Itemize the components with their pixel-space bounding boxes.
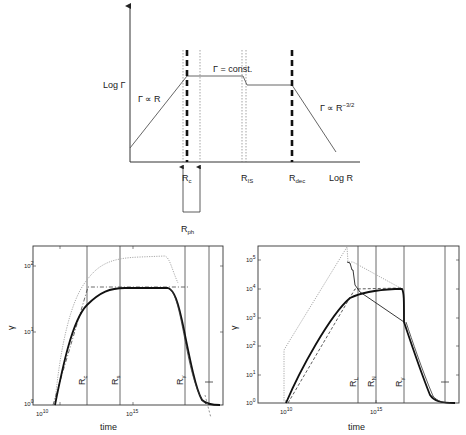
right-label-rn: RN	[366, 376, 377, 387]
label-ris: RIS	[241, 173, 253, 184]
label-rph: Rph	[181, 224, 194, 235]
left-thick-curve	[55, 288, 220, 405]
left-xtick-15: 1015	[126, 408, 138, 417]
right-ytick-5: 105	[246, 254, 256, 263]
right-xtick-15: 1015	[370, 406, 382, 415]
left-ytick-1: 101	[24, 326, 34, 335]
right-ytick-1: 101	[246, 369, 256, 378]
left-plot: 100 101 102 1010 1015 time γ Rc Rs Rγ	[6, 246, 223, 432]
label-acceleration: Γ ∝ R	[138, 94, 161, 104]
label-rc: Rc	[182, 173, 192, 184]
right-xtick-10: 1010	[280, 406, 292, 415]
left-dash-tail	[205, 395, 211, 418]
left-ytick-0: 100	[24, 398, 34, 407]
left-ytick-2: 102	[24, 260, 34, 269]
left-label-rs: Rs	[110, 376, 121, 386]
right-plot: 100 101 102 103 104 105 1010 1015 time γ…	[229, 246, 459, 432]
right-dashed-curve	[288, 288, 402, 403]
right-ytick-2: 102	[246, 340, 256, 349]
left-label-rgamma: Rγ	[175, 376, 186, 386]
figure: Log Γ Γ ∝ R Γ = const. Γ ∝ R−3/2 Rc RIS …	[0, 0, 466, 435]
label-rdec: Rdec	[289, 173, 305, 184]
left-xtick-10: 1010	[36, 408, 48, 417]
right-x-label: time	[348, 422, 365, 432]
right-ytick-0: 100	[246, 397, 256, 406]
right-thin-curve	[347, 262, 404, 322]
right-y-label: γ	[229, 325, 239, 330]
right-ytick-4: 104	[246, 283, 256, 292]
lorentz-factor-curve	[130, 76, 336, 152]
right-y-ticks	[258, 260, 459, 403]
schematic-y-label: Log Γ	[103, 80, 126, 90]
right-label-rl: RL	[348, 377, 359, 388]
right-label-rgamma: Rγ	[394, 378, 405, 388]
label-coasting: Γ = const.	[213, 64, 252, 74]
schematic-diagram: Log Γ Γ ∝ R Γ = const. Γ ∝ R−3/2 Rc RIS …	[103, 6, 360, 235]
schematic-x-label: Log R	[329, 173, 354, 183]
right-ytick-3: 103	[246, 312, 256, 321]
left-label-rc: Rc	[77, 376, 88, 386]
label-deceleration: Γ ∝ R−3/2	[320, 102, 355, 113]
left-y-label: γ	[6, 325, 16, 330]
left-x-label: time	[100, 422, 117, 432]
